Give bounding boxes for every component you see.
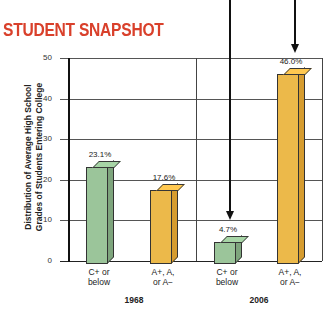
value-label: 4.7%: [208, 225, 248, 234]
category-label: C+ orbelow: [74, 267, 124, 287]
grid-divider: [196, 58, 197, 261]
y-axis-label-line-1: Distribution of Average High School: [23, 55, 34, 260]
category-label-line: A+, A,: [138, 267, 188, 277]
group-label-2006: 2006: [234, 295, 284, 305]
bar-2006-a-range: [277, 74, 305, 264]
annotation-arrow-line: [229, 0, 231, 212]
category-label-line: or A−: [265, 277, 315, 287]
bar-1968-a-range: [150, 190, 178, 264]
category-label-line: C+ or: [74, 267, 124, 277]
bar-top: [220, 236, 249, 243]
annotation-arrowhead-icon: [291, 44, 299, 53]
category-label: A+, A,or A−: [265, 267, 315, 287]
category-label: C+ orbelow: [202, 267, 252, 287]
bar-front: [150, 190, 172, 264]
category-label-line: or A−: [138, 277, 188, 287]
group-label-1968: 1968: [109, 295, 159, 305]
category-label-line: below: [202, 277, 252, 287]
bar-side: [171, 183, 178, 264]
y-tick-label: 40: [32, 94, 52, 103]
bar-top: [92, 161, 121, 168]
bar-front: [86, 167, 108, 264]
y-axis-label-line-2: Grades of Students Entering College: [34, 55, 45, 260]
category-label-line: C+ or: [202, 267, 252, 277]
chart-title: STUDENT SNAPSHOT: [3, 19, 164, 41]
y-tick-label: 0: [32, 256, 52, 265]
value-label: 23.1%: [80, 150, 120, 159]
bar-2006-c-or-below: [214, 242, 242, 264]
y-tick-label: 20: [32, 175, 52, 184]
category-label-line: below: [74, 277, 124, 287]
plot-right-border: [322, 58, 323, 261]
y-axis-label: Distribution of Average High School Grad…: [23, 55, 45, 260]
y-axis-line: [68, 58, 70, 262]
y-tick-label: 50: [32, 53, 52, 62]
annotation-arrow-line: [294, 0, 296, 44]
bar-side: [298, 67, 305, 264]
category-label: A+, A,or A−: [138, 267, 188, 287]
category-label-line: A+, A,: [265, 267, 315, 277]
value-label: 17.6%: [144, 173, 184, 182]
bar-side: [107, 160, 114, 264]
value-label: 46.0%: [271, 57, 311, 66]
bar-top: [283, 68, 312, 75]
bar-top: [156, 184, 185, 191]
y-tick-label: 30: [32, 134, 52, 143]
bar-front: [277, 74, 299, 264]
y-tick-label: 10: [32, 215, 52, 224]
bar-front: [214, 242, 236, 264]
bar-1968-c-or-below: [86, 167, 114, 264]
annotation-arrowhead-icon: [226, 211, 234, 220]
